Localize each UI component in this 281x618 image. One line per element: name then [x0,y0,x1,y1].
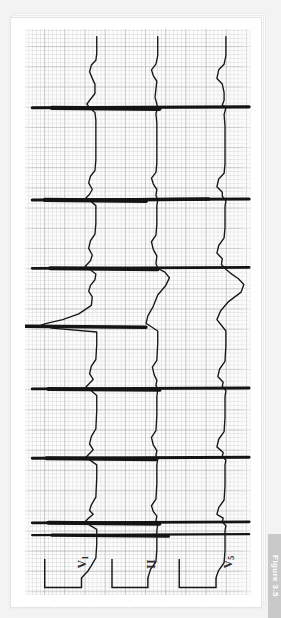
lead-label-v1-text: V [75,560,89,569]
trace-lead-v1 [41,37,97,578]
calibration-pulse-group [45,559,216,587]
figure-number-tab: Figure 3.5 [268,534,281,618]
lead-label-ii: II [145,559,157,569]
lead-label-v5-text: V [221,560,235,569]
lead-label-v1-subscript: 1 [81,555,90,559]
lead-label-v5: V5 [222,555,234,568]
trace-lead-v5 [216,37,244,578]
ecg-traces [25,29,251,595]
calibration-pulse-v5 [179,559,216,587]
ecg-strip [25,29,251,595]
trace-lead-ii [146,37,169,578]
lead-label-ii-text: II [144,559,158,569]
lead-label-v5-subscript: 5 [227,555,236,559]
ecg-paper [10,17,262,608]
qrs-band-group [25,107,249,536]
figure-number-label: Figure 3.5 [270,555,279,597]
lead-label-v1: V1 [76,555,88,568]
calibration-pulse-ii [112,559,148,587]
figure-page: V1 II V5 Figure 3.5 [0,0,281,618]
